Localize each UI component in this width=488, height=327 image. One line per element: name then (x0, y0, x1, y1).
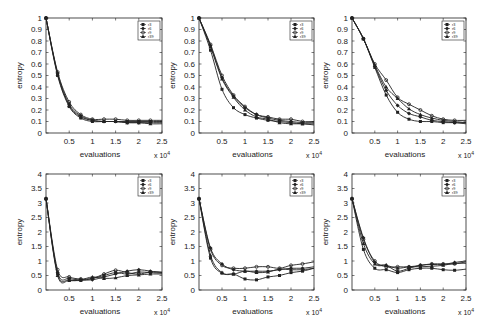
series-line (46, 199, 162, 280)
marker-square (290, 271, 293, 274)
y-tick-label: 0.3 (31, 94, 43, 103)
x-tick-label: 1.5 (110, 294, 122, 303)
y-tick-label: 0.2 (337, 106, 349, 115)
x-axis-label: evaluations (80, 307, 120, 316)
y-tick-label: 0.9 (31, 25, 43, 34)
y-tick-label: 4 (38, 170, 43, 179)
x-tick-label: 0.5 (369, 137, 381, 146)
chart-bottom-middle: 00.511.522.533.540.511.522.5evaluationsx… (168, 170, 322, 316)
marker-square (294, 179, 297, 182)
y-tick-label: 0.5 (31, 271, 43, 280)
chart-top-left: 00.10.20.30.40.50.60.70.80.910.511.522.5… (15, 14, 170, 159)
y-axis-label: entropy (15, 62, 24, 89)
x-tick-label: 2 (289, 137, 294, 146)
y-tick-label: 1 (191, 14, 196, 23)
y-tick-label: 2.5 (184, 213, 196, 222)
x-tick-label: 2 (441, 294, 446, 303)
legend-label: r39 (300, 191, 306, 195)
x-tick-label: 0.5 (216, 137, 228, 146)
x-axis-label: evaluations (385, 150, 425, 159)
x-tick-label: 2 (289, 294, 294, 303)
series-r9 (45, 197, 163, 280)
x-axis-label: evaluations (385, 307, 425, 316)
legend: r3r6r9r39 (290, 21, 312, 40)
legend: r3r6r9r39 (138, 177, 160, 196)
y-axis-label: entropy (168, 219, 177, 246)
series-r6 (197, 197, 314, 274)
y-tick-label: 0.7 (184, 48, 196, 57)
x-tick-label: 2.5 (308, 294, 320, 303)
y-tick-label: 1 (344, 14, 349, 23)
series-r6 (350, 197, 466, 274)
y-tick-label: 0 (38, 286, 43, 295)
x-tick-label: 2.5 (308, 137, 320, 146)
x-multiplier-label: x 104 (306, 307, 322, 316)
y-tick-label: 3.5 (337, 184, 349, 193)
marker-square (373, 267, 376, 270)
series-r6 (44, 197, 162, 282)
y-tick-label: 0.1 (337, 117, 349, 126)
marker-square (419, 120, 422, 123)
x-multiplier-label: x 104 (154, 307, 170, 316)
series-r39 (197, 197, 314, 276)
x-multiplier-label: x 104 (458, 150, 474, 159)
y-tick-label: 0.5 (184, 71, 196, 80)
x-tick-label: 2 (137, 137, 142, 146)
legend-label: r39 (148, 191, 154, 195)
y-axis-label: entropy (321, 219, 330, 246)
x-tick-label: 2.5 (156, 137, 168, 146)
marker-square (408, 118, 411, 121)
y-tick-label: 3 (191, 199, 196, 208)
legend-label: r39 (148, 35, 154, 39)
y-tick-label: 1 (38, 257, 43, 266)
chart-canvas: 00.10.20.30.40.50.60.70.80.910.511.522.5… (0, 0, 488, 327)
y-tick-label: 1.5 (337, 242, 349, 251)
series-r3 (351, 197, 467, 274)
y-tick-label: 2 (38, 228, 43, 237)
legend-label: r39 (452, 191, 458, 195)
marker-square (244, 277, 247, 280)
y-axis-label: entropy (168, 62, 177, 89)
marker-diamond (407, 111, 411, 115)
y-tick-label: 0.5 (31, 71, 43, 80)
y-tick-label: 0.6 (337, 60, 349, 69)
y-tick-label: 0.8 (31, 37, 43, 46)
x-multiplier-label: x 104 (458, 307, 474, 316)
y-tick-label: 0.9 (337, 25, 349, 34)
x-tick-label: 0.5 (369, 294, 381, 303)
marker-square (385, 94, 388, 97)
y-tick-label: 0.5 (337, 71, 349, 80)
y-tick-label: 4 (344, 170, 349, 179)
y-tick-label: 0.6 (31, 60, 43, 69)
y-tick-label: 0.2 (184, 106, 196, 115)
series-line (199, 199, 314, 275)
chart-top-middle: 00.10.20.30.40.50.60.70.80.910.511.522.5… (168, 14, 322, 159)
y-tick-label: 0.7 (337, 48, 349, 57)
y-tick-label: 0.4 (184, 83, 196, 92)
y-axis-label: entropy (321, 62, 330, 89)
x-tick-label: 1 (395, 294, 400, 303)
marker-square (446, 179, 449, 182)
x-tick-label: 1 (90, 137, 95, 146)
y-tick-label: 3.5 (184, 184, 196, 193)
x-tick-label: 2.5 (460, 294, 472, 303)
marker-square (267, 275, 270, 278)
y-tick-label: 2.5 (31, 213, 43, 222)
legend: r3r6r9r39 (442, 21, 464, 40)
marker-square (453, 269, 456, 272)
marker-square (221, 88, 224, 91)
x-tick-label: 2.5 (460, 137, 472, 146)
chart-bottom-left: 00.511.522.533.540.511.522.5evaluationsx… (15, 170, 170, 316)
y-tick-label: 2 (344, 228, 349, 237)
y-axis-label: entropy (15, 219, 24, 246)
x-tick-label: 1 (395, 137, 400, 146)
y-tick-label: 1 (38, 14, 43, 23)
marker-square (442, 268, 445, 271)
y-tick-label: 1.5 (31, 242, 43, 251)
y-tick-label: 0.5 (337, 271, 349, 280)
series-line (352, 199, 466, 273)
marker-square (244, 113, 247, 116)
x-tick-label: 0.5 (64, 294, 76, 303)
x-tick-label: 1 (243, 137, 248, 146)
x-tick-label: 0.5 (216, 294, 228, 303)
